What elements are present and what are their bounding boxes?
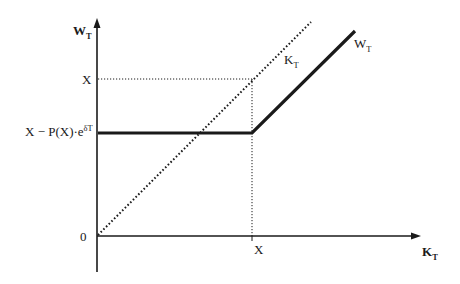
wt-line — [98, 31, 355, 133]
y-tick-upper-label: X — [82, 73, 91, 86]
x-axis-label: KT — [422, 245, 438, 258]
y-axis-label: WT — [73, 24, 92, 37]
y-axis-arrowhead — [94, 18, 101, 28]
x-tick-label: X — [254, 243, 263, 256]
x-axis-arrowhead — [411, 233, 421, 240]
wt-curve-label: WT — [354, 37, 371, 50]
origin-label: 0 — [80, 230, 87, 243]
kt-line — [98, 22, 311, 235]
payoff-diagram — [0, 0, 460, 284]
kt-curve-label: KT — [284, 53, 299, 66]
y-tick-lower-label: X − P(X)·eδT — [25, 125, 93, 138]
